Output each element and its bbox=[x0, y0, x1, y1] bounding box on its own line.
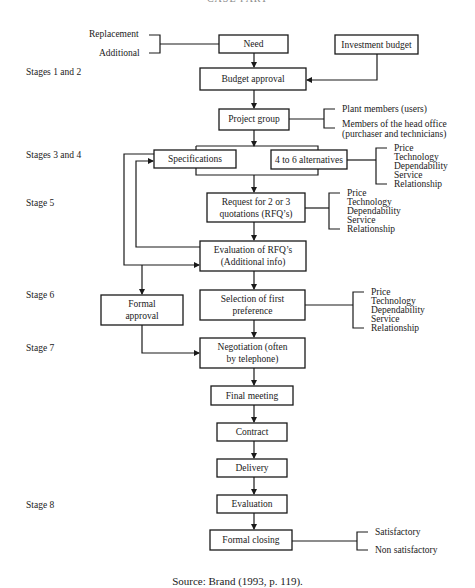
budget-approval-label: Budget approval bbox=[200, 74, 306, 84]
need-input-replacement: Replacement bbox=[89, 29, 139, 39]
negotiation-label-line1: Negotiation (often bbox=[200, 342, 305, 352]
stage-label-3-4: Stages 3 and 4 bbox=[26, 150, 81, 160]
source-caption: Source: Brand (1993, p. 119). bbox=[0, 576, 475, 586]
member-head-office-line1: Members of the head office bbox=[342, 119, 447, 129]
member-plant-users: Plant members (users) bbox=[342, 104, 427, 114]
stage-label-5: Stage 5 bbox=[26, 198, 54, 208]
evaluation-label: Evaluation bbox=[217, 499, 287, 509]
project-group-label: Project group bbox=[219, 114, 289, 124]
sel-criteria-relationship: Relationship bbox=[371, 324, 419, 333]
need-input-additional: Additional bbox=[99, 48, 140, 58]
selection-label-line2: preference bbox=[200, 306, 305, 316]
formal-approval-label-line2: approval bbox=[101, 311, 183, 321]
formal-closing-label: Formal closing bbox=[210, 535, 292, 545]
formal-approval-label-line1: Formal bbox=[101, 299, 183, 309]
request-label-line2: quotations (RFQ’s) bbox=[207, 209, 305, 219]
outcome-non-satisfactory: Non satisfactory bbox=[375, 545, 438, 555]
outcome-satisfactory: Satisfactory bbox=[375, 527, 420, 537]
alt-criteria-relationship: Relationship bbox=[394, 180, 442, 189]
rfq-criteria-relationship: Relationship bbox=[347, 225, 395, 234]
stage-label-8: Stage 8 bbox=[26, 500, 54, 510]
alternatives-label: 4 to 6 alternatives bbox=[271, 155, 347, 165]
member-head-office-line2: (purchaser and technicians) bbox=[342, 129, 446, 139]
evaluation-rfq-label-line1: Evaluation of RFQ’s bbox=[200, 245, 306, 255]
need-label: Need bbox=[219, 39, 288, 49]
request-label-line1: Request for 2 or 3 bbox=[207, 197, 305, 207]
specifications-label: Specifications bbox=[154, 154, 236, 164]
stage-label-1-2: Stages 1 and 2 bbox=[26, 67, 81, 77]
investment-budget-label: Investment budget bbox=[335, 40, 418, 50]
stage-label-6: Stage 6 bbox=[26, 290, 54, 300]
selection-label-line1: Selection of first bbox=[200, 294, 305, 304]
delivery-label: Delivery bbox=[217, 463, 287, 473]
negotiation-label-line2: by telephone) bbox=[200, 354, 305, 364]
contract-label: Contract bbox=[217, 427, 287, 437]
final-meeting-label: Final meeting bbox=[211, 391, 293, 401]
evaluation-rfq-label-line2: (Additional info) bbox=[200, 257, 306, 267]
stage-label-7: Stage 7 bbox=[26, 343, 54, 353]
